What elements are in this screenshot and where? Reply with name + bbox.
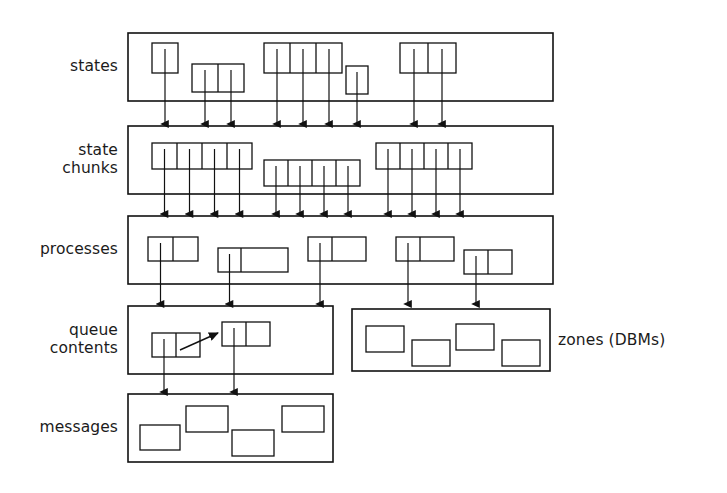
row-label-states: states [10,57,118,75]
object-zones-1 [412,340,450,366]
row-label-processes: processes [2,240,118,258]
diagram-geometry [128,33,553,462]
object-messages-3 [282,406,324,432]
object-messages-2 [232,430,274,456]
object-processes-3 [396,237,454,261]
object-processes-1 [218,248,288,272]
object-messages-0 [140,425,180,450]
object-zones-2 [456,324,494,350]
row-label-queue-contents: queue contents [10,321,118,357]
object-zones-3 [502,340,540,366]
row-label-messages: messages [2,418,118,436]
object-zones-0 [366,326,404,352]
side-label-zones: zones (DBMs) [558,331,665,349]
arrow-queue-internal-link [180,333,218,350]
object-messages-1 [186,406,228,432]
object-processes-2 [308,237,366,261]
diagram-canvas: states state chunks processes queue cont… [0,0,727,493]
container-queue_contents [128,306,333,374]
container-messages [128,394,333,462]
row-label-state-chunks: state chunks [10,141,118,177]
